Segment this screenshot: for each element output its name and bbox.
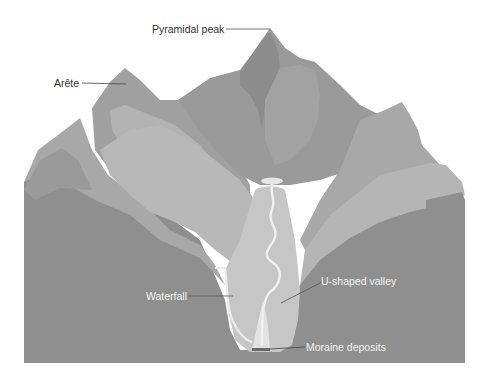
glacial-landscape-diagram [0,0,489,381]
label-waterfall: Waterfall [146,290,187,302]
label-pyramidal-peak: Pyramidal peak [152,23,224,35]
label-u-shaped-valley: U-shaped valley [321,275,396,287]
label-moraine-deposits: Moraine deposits [306,341,386,353]
right-base-extension [426,192,465,363]
moraine-deposits-strip [252,348,270,351]
cirque-lake [261,178,283,185]
label-arete: Arête [54,77,79,89]
